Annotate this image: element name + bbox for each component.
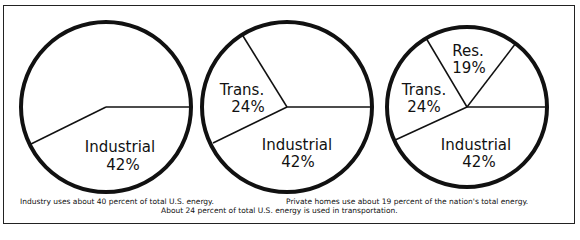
pie-transportation: Trans. 24% Industrial 42%	[202, 22, 372, 192]
pie-industrial: Industrial 42%	[21, 22, 191, 192]
pct-res-3: 19%	[452, 59, 485, 77]
pct-industrial-3: 42%	[462, 153, 495, 171]
caption-industry: Industry uses about 40 percent of total …	[20, 197, 214, 206]
label-industrial-1: Industrial	[85, 138, 155, 156]
pct-industrial-1: 42%	[106, 156, 139, 174]
label-trans-2: Trans.	[219, 81, 264, 99]
label-trans-3: Trans.	[401, 81, 446, 99]
caption-transport: About 24 percent of total U.S. energy is…	[161, 206, 398, 215]
pct-trans-3: 24%	[407, 98, 440, 116]
label-res-3: Res.	[452, 42, 484, 60]
pct-industrial-2: 42%	[281, 153, 314, 171]
pie-residential: Res. 19% Trans. 24% Industrial 42%	[387, 27, 547, 187]
pct-trans-2: 24%	[231, 98, 264, 116]
caption-homes: Private homes use about 19 percent of th…	[286, 197, 528, 206]
label-industrial-3: Industrial	[441, 136, 511, 154]
label-industrial-2: Industrial	[262, 136, 332, 154]
